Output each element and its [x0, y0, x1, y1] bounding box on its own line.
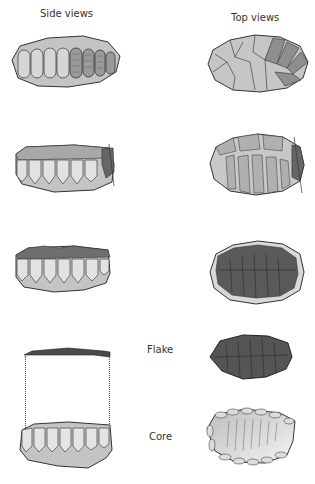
connector-line-left [25, 356, 26, 428]
side-view-stage-2 [14, 144, 119, 199]
top-view-stage-3 [208, 240, 308, 306]
flake-side-view [24, 346, 112, 358]
flake-top-view [208, 333, 294, 381]
core-top-view [205, 407, 299, 467]
side-view-stage-3 [14, 245, 114, 300]
top-view-stage-1 [205, 32, 310, 94]
flake-label: Flake [147, 344, 173, 355]
side-view-stage-1 [8, 32, 123, 90]
core-side-view [18, 420, 114, 476]
top-views-header: Top views [231, 12, 279, 23]
core-label: Core [149, 431, 172, 442]
side-views-header: Side views [40, 8, 93, 19]
top-view-stage-2 [208, 133, 308, 197]
connector-line-right [109, 356, 110, 428]
